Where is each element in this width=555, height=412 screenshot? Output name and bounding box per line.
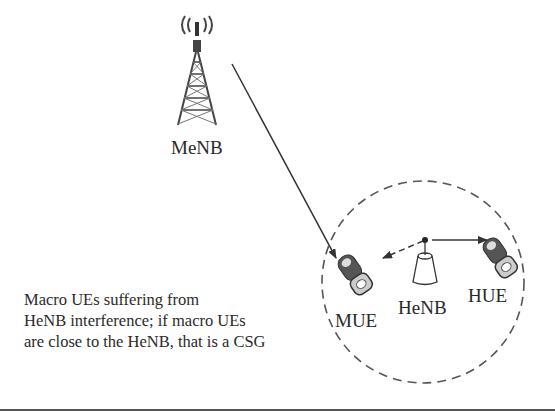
menb-label: MeNB <box>171 137 223 159</box>
menb-to-mue-arrow <box>232 64 336 258</box>
caption-line: are close to the HeNB, that is a CSG <box>24 331 266 352</box>
hue-label: HUE <box>468 285 507 307</box>
mue-phone-icon <box>334 251 374 297</box>
caption: Macro UEs suffering from HeNB interferen… <box>24 289 266 352</box>
henb-label: HeNB <box>398 297 447 319</box>
mue-label: MUE <box>335 310 377 332</box>
caption-line: Macro UEs suffering from <box>24 289 266 310</box>
hue-phone-icon <box>479 234 519 280</box>
henb-to-mue-interference-arrow <box>383 241 423 258</box>
henb-icon <box>413 237 437 285</box>
macro-tower-icon <box>178 16 216 125</box>
caption-line: HeNB interference; if macro UEs <box>24 310 266 331</box>
bottom-rule <box>0 409 555 411</box>
